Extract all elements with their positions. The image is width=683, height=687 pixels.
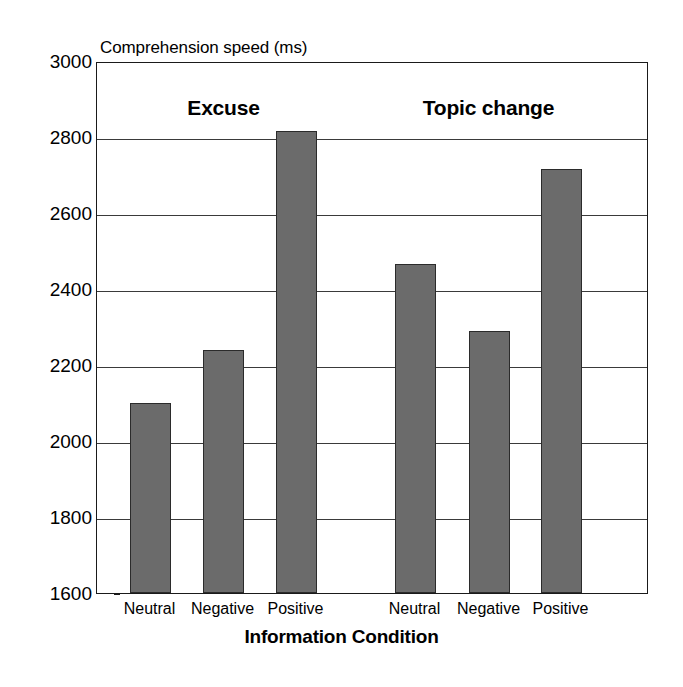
y-tick-label: 2400 <box>30 280 92 299</box>
chart-title: Comprehension speed (ms) <box>100 38 307 58</box>
x-tick-label: Negative <box>457 600 520 618</box>
y-tick-label: 2000 <box>30 432 92 451</box>
bar-chart-figure: Comprehension speed (ms) 300028002600240… <box>0 0 683 687</box>
x-tick-label: Neutral <box>124 600 176 618</box>
bar <box>469 331 510 593</box>
y-tick-label: 2200 <box>30 356 92 375</box>
bar <box>541 169 582 593</box>
y-tick-label: 1800 <box>30 508 92 527</box>
bar <box>276 131 317 593</box>
x-axis-title: Information Condition <box>0 626 683 648</box>
group-label-topic-change: Topic change <box>423 96 554 120</box>
x-tick-label: Positive <box>267 600 323 618</box>
group-label-excuse: Excuse <box>187 96 259 120</box>
x-tick-label: Positive <box>532 600 588 618</box>
y-tick-label: 2800 <box>30 128 92 147</box>
gridline <box>97 139 647 140</box>
bar <box>395 264 436 593</box>
plot-area: Excuse Topic change <box>96 62 648 594</box>
y-tick-label: 3000 <box>30 52 92 71</box>
y-tick-label: 1600 <box>30 584 92 603</box>
y-tick-mark <box>114 594 120 595</box>
bar <box>130 403 171 593</box>
y-tick-label: 2600 <box>30 204 92 223</box>
x-tick-label: Negative <box>191 600 254 618</box>
x-tick-label: Neutral <box>389 600 441 618</box>
bar <box>203 350 244 593</box>
